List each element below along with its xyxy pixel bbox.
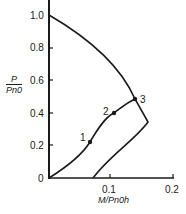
- loading-path: [49, 99, 135, 178]
- y-tick-0.6: 0.6: [30, 75, 44, 86]
- y-label-numerator: P: [6, 74, 22, 85]
- y-tick-1.0: 1.0: [30, 10, 44, 21]
- point-2-label: 2: [103, 106, 109, 117]
- y-tick-0: 0: [38, 173, 44, 184]
- interaction-chart: 1.0 0.8 0.6 0.4 0.2 0 0.1 0.2 1 2 3: [0, 0, 186, 214]
- point-2-marker: [112, 111, 116, 115]
- x-tick-0.2: 0.2: [165, 184, 179, 195]
- y-axis-label: P Pn0: [6, 74, 22, 95]
- point-3-marker: [133, 97, 137, 101]
- x-axis-label: M/Pn0h: [98, 195, 129, 205]
- y-tick-0.8: 0.8: [30, 42, 44, 53]
- point-1-marker: [88, 140, 92, 144]
- y-tick-0.4: 0.4: [30, 108, 44, 119]
- envelope-curve: [49, 15, 148, 178]
- point-3-label: 3: [140, 94, 146, 105]
- point-1-label: 1: [80, 132, 86, 143]
- y-label-denominator: Pn0: [6, 85, 22, 95]
- x-tick-0.1: 0.1: [102, 184, 116, 195]
- y-tick-0.2: 0.2: [30, 140, 44, 151]
